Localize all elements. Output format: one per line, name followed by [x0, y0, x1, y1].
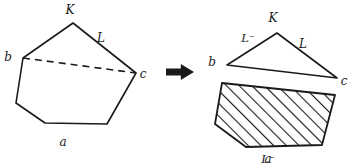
- label-L-right: L: [298, 37, 307, 51]
- right-arrow-shaft: [166, 69, 183, 76]
- label-b-right: b: [208, 55, 216, 69]
- left-pentagon-outline: [16, 23, 136, 124]
- label-L-minus-right: L⁻: [260, 152, 275, 166]
- label-c-left: c: [140, 67, 147, 81]
- label-L-minus-left: L⁻: [240, 31, 255, 45]
- label-L-left: L: [96, 31, 105, 45]
- right-arrow-head: [181, 64, 194, 80]
- hatched-polygon: [215, 83, 335, 147]
- label-K-left: K: [65, 3, 76, 17]
- label-b-left: b: [4, 50, 12, 64]
- right-hatched-group: [215, 83, 335, 147]
- right-arrow-group: [166, 64, 194, 80]
- diagram-canvas: L K b c a L⁻ L K b c a L⁻: [0, 0, 359, 168]
- left-pentagon-group: [16, 23, 136, 124]
- label-a-left: a: [59, 135, 66, 149]
- label-c-right: c: [341, 74, 348, 88]
- label-K-right: K: [268, 11, 279, 25]
